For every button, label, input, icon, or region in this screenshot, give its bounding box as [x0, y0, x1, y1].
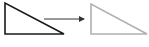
transformation-diagram [0, 0, 149, 47]
target-triangle [91, 4, 147, 34]
